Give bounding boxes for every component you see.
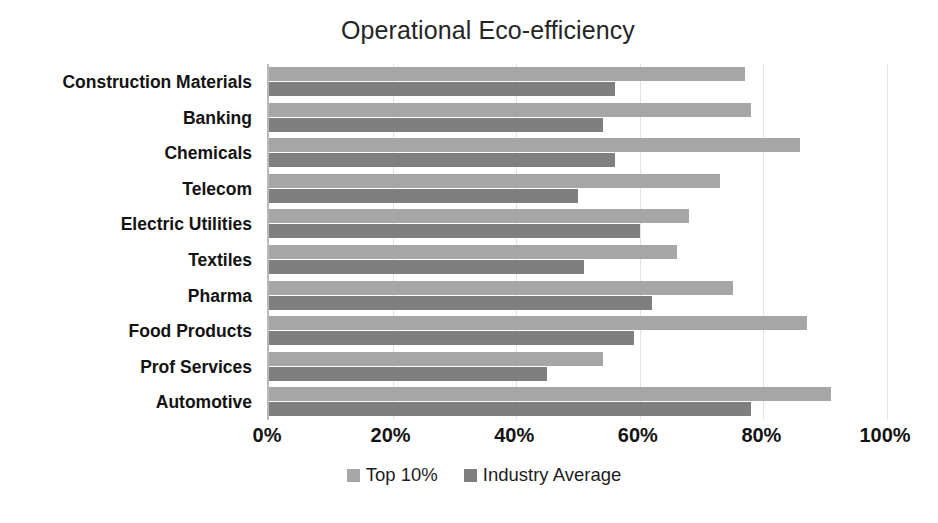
bar-industry-average[interactable] xyxy=(269,82,615,96)
bar-top10[interactable] xyxy=(269,67,745,81)
chart-legend: Top 10%Industry Average xyxy=(0,464,938,486)
legend-item-top-10[interactable]: Top 10% xyxy=(347,464,438,486)
gridline-100pct xyxy=(887,64,888,420)
bar-top10[interactable] xyxy=(269,316,807,330)
category-label-banking: Banking xyxy=(183,110,252,128)
bar-top10[interactable] xyxy=(269,387,831,401)
bar-group xyxy=(269,103,887,132)
legend-label: Top 10% xyxy=(366,464,438,486)
bar-group xyxy=(269,281,887,310)
bar-industry-average[interactable] xyxy=(269,189,578,203)
legend-swatch-icon xyxy=(464,469,477,482)
bar-group xyxy=(269,174,887,203)
bar-industry-average[interactable] xyxy=(269,153,615,167)
category-label-automotive: Automotive xyxy=(156,394,252,412)
x-axis: 0%20%40%60%80%100% xyxy=(267,420,885,454)
bar-top10[interactable] xyxy=(269,103,751,117)
category-label-chemicals: Chemicals xyxy=(164,145,252,163)
bar-group xyxy=(269,316,887,345)
bar-top10[interactable] xyxy=(269,138,800,152)
legend-swatch-icon xyxy=(347,469,360,482)
bar-industry-average[interactable] xyxy=(269,296,652,310)
category-label-prof-services: Prof Services xyxy=(140,359,252,377)
category-label-textiles: Textiles xyxy=(188,252,252,270)
bar-industry-average[interactable] xyxy=(269,260,584,274)
bar-group xyxy=(269,245,887,274)
bar-top10[interactable] xyxy=(269,352,603,366)
bar-top10[interactable] xyxy=(269,174,720,188)
plot-area xyxy=(267,64,887,420)
category-label-pharma: Pharma xyxy=(188,288,252,306)
category-axis-labels: Construction MaterialsBankingChemicalsTe… xyxy=(0,64,258,420)
legend-item-industry-average[interactable]: Industry Average xyxy=(464,464,622,486)
x-tick-label: 0% xyxy=(253,424,282,447)
plot-wrapper: Construction MaterialsBankingChemicalsTe… xyxy=(0,64,938,420)
bar-industry-average[interactable] xyxy=(269,331,634,345)
bar-top10[interactable] xyxy=(269,209,689,223)
x-tick-label: 40% xyxy=(494,424,534,447)
bar-group xyxy=(269,138,887,167)
bar-group xyxy=(269,352,887,381)
bar-industry-average[interactable] xyxy=(269,402,751,416)
category-label-construction-materials: Construction Materials xyxy=(62,74,252,92)
category-label-telecom: Telecom xyxy=(182,181,252,199)
legend-label: Industry Average xyxy=(483,464,622,486)
bar-group xyxy=(269,209,887,238)
bar-industry-average[interactable] xyxy=(269,224,640,238)
x-tick-label: 20% xyxy=(371,424,411,447)
chart-container: Operational Eco-efficiency Construction … xyxy=(0,0,938,523)
bar-top10[interactable] xyxy=(269,281,733,295)
bar-industry-average[interactable] xyxy=(269,367,547,381)
chart-title: Operational Eco-efficiency xyxy=(0,16,938,45)
category-label-electric-utilities: Electric Utilities xyxy=(121,216,252,234)
x-tick-label: 100% xyxy=(859,424,910,447)
x-tick-label: 60% xyxy=(618,424,658,447)
category-label-food-products: Food Products xyxy=(129,323,252,341)
bar-group xyxy=(269,67,887,96)
bar-top10[interactable] xyxy=(269,245,677,259)
x-tick-label: 80% xyxy=(741,424,781,447)
bar-group xyxy=(269,387,887,416)
bar-industry-average[interactable] xyxy=(269,118,603,132)
